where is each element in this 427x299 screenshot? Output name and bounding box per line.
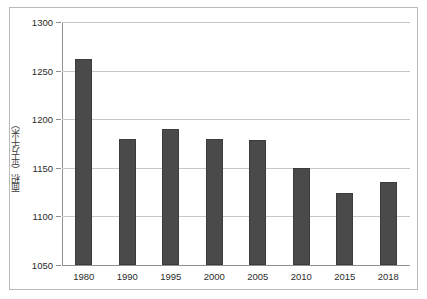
gridline: [62, 119, 410, 120]
bar: [119, 139, 136, 265]
gridline: [62, 71, 410, 72]
gridline: [62, 22, 410, 23]
x-axis-tick-label: 2005: [247, 271, 268, 282]
y-axis-tick-label: 1200: [32, 114, 53, 125]
y-axis-tick-label: 1100: [33, 211, 53, 222]
bar: [206, 139, 223, 265]
bar: [293, 168, 310, 265]
bar: [249, 140, 266, 265]
y-axis-tick-label: 1300: [32, 17, 53, 28]
x-axis-tick-label: 1995: [160, 271, 181, 282]
bar: [380, 182, 397, 265]
y-axis-tick-label: 1050: [32, 260, 53, 271]
bar: [336, 193, 353, 265]
y-axis-tick-mark: [56, 119, 61, 120]
x-axis-tick-label: 2010: [291, 271, 312, 282]
x-axis-tick-label: 2018: [378, 271, 399, 282]
bar: [162, 129, 179, 265]
y-axis-tick-mark: [56, 216, 61, 217]
bar: [75, 59, 92, 265]
y-axis-label: 面积（平方千米）: [6, 96, 24, 216]
plot-area: 105011001150120012501300 198019901995200…: [62, 22, 410, 265]
gridline: [62, 216, 410, 217]
y-axis-tick-mark: [56, 22, 61, 23]
x-axis-tick-label: 1980: [73, 271, 94, 282]
x-axis-line: [62, 265, 410, 266]
x-axis-tick-label: 2000: [204, 271, 225, 282]
y-axis-tick-mark: [56, 265, 61, 266]
y-axis-tick-label: 1250: [32, 65, 53, 76]
y-axis-tick-mark: [56, 71, 61, 72]
y-axis-tick-label: 1150: [33, 162, 53, 173]
x-axis-tick-label: 1990: [117, 271, 138, 282]
y-axis-tick-mark: [56, 168, 61, 169]
x-axis-tick-label: 2015: [334, 271, 355, 282]
chart-figure: 面积（平方千米） 105011001150120012501300 198019…: [0, 0, 427, 299]
gridline: [62, 168, 410, 169]
